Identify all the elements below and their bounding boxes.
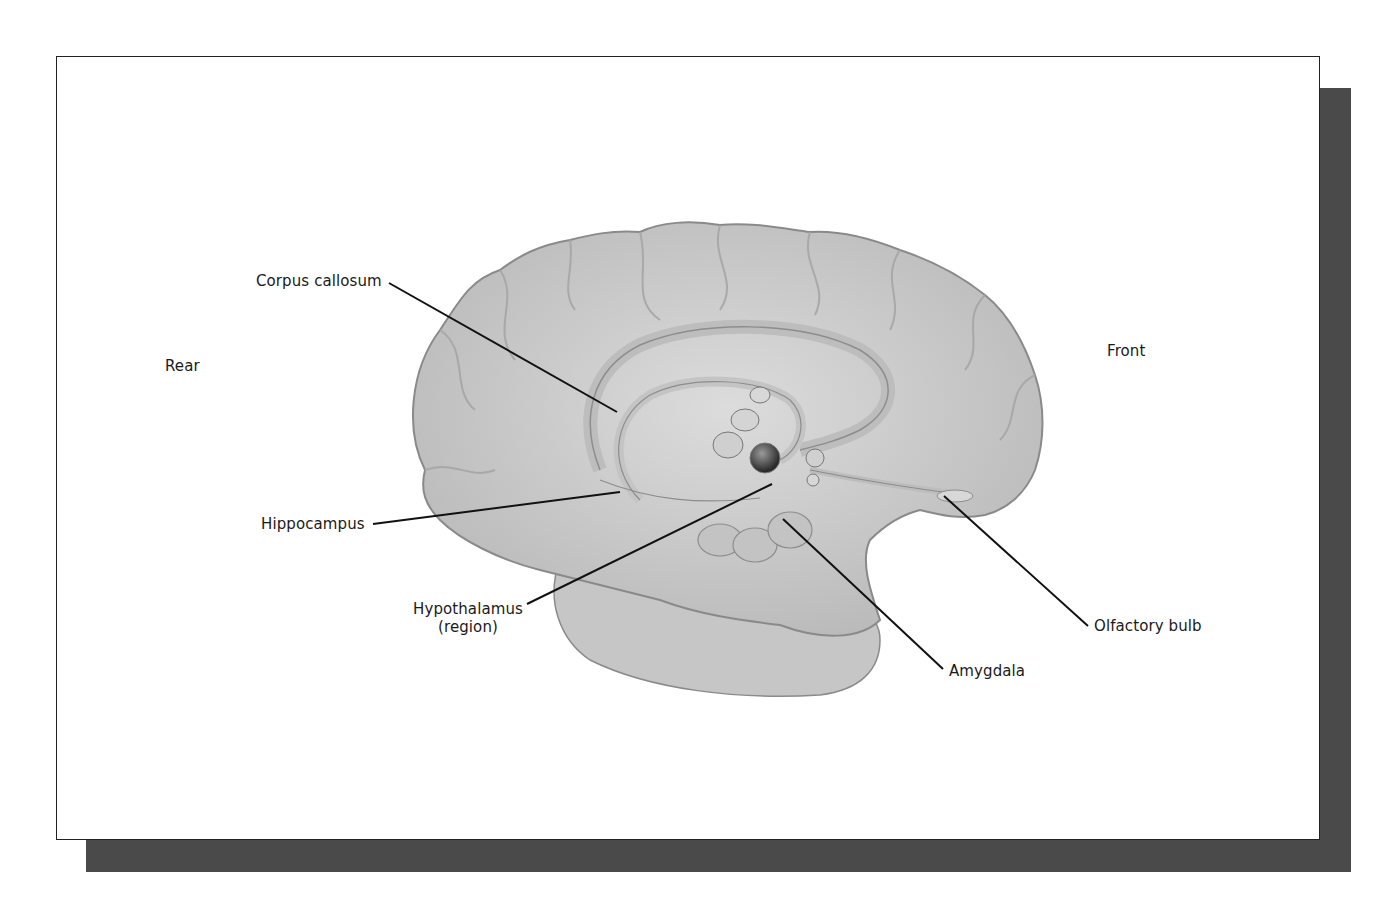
olfactory-bulb-shape: [937, 490, 973, 502]
leader-line-olfactory-bulb: [944, 496, 1088, 626]
label-corpus-callosum: Corpus callosum: [256, 272, 382, 290]
label-hypothalamus-line1: Hypothalamus: [411, 600, 525, 618]
label-hypothalamus: Hypothalamus (region): [411, 600, 525, 636]
label-hippocampus: Hippocampus: [261, 515, 365, 533]
orientation-rear-label: Rear: [165, 357, 200, 375]
label-olfactory-bulb: Olfactory bulb: [1094, 617, 1202, 635]
orientation-front-label: Front: [1107, 342, 1145, 360]
label-amygdala: Amygdala: [949, 662, 1025, 680]
brain-illustration: [0, 0, 1398, 903]
label-hypothalamus-line2: (region): [411, 618, 525, 636]
